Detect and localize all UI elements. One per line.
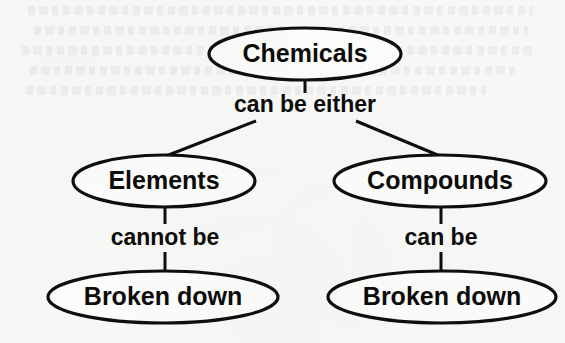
node-elements[interactable]: Elements [73,155,255,207]
node-broken-down-left-label: Broken down [84,282,242,310]
node-chemicals[interactable]: Chemicals [209,28,401,80]
node-elements-label: Elements [108,166,219,194]
node-compounds-label: Compounds [367,166,513,194]
node-broken-down-left[interactable]: Broken down [48,271,278,323]
edge-label-cannot-be: cannot be [111,224,220,250]
diagram-page: Chemicals can be either Elements Compoun… [0,0,565,343]
node-broken-down-right[interactable]: Broken down [328,271,556,323]
connector-label-to-elements [166,121,256,156]
edge-label-can-be: can be [405,224,478,250]
node-chemicals-label: Chemicals [242,39,367,67]
edge-label-can-be-either: can be either [234,91,376,117]
node-compounds[interactable]: Compounds [334,155,546,207]
node-broken-down-right-label: Broken down [363,282,521,310]
concept-map-diagram: Chemicals can be either Elements Compoun… [0,0,565,343]
connector-label-to-compounds [356,121,440,156]
